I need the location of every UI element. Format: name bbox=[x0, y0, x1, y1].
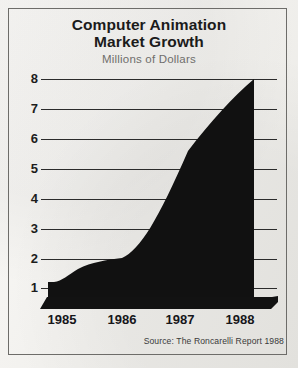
ytick-label-5: 5 bbox=[14, 161, 38, 176]
xtick-label-1988: 1988 bbox=[217, 312, 263, 327]
ytick-dash-2 bbox=[41, 259, 48, 260]
xtick-label-1985: 1985 bbox=[39, 312, 85, 327]
ytick-label-4: 4 bbox=[14, 191, 38, 206]
ytick-label-7: 7 bbox=[14, 101, 38, 116]
xtick-label-1987: 1987 bbox=[157, 312, 203, 327]
ytick-dash-1 bbox=[41, 288, 48, 289]
ytick-label-6: 6 bbox=[14, 131, 38, 146]
axis-baseline-band bbox=[40, 296, 278, 309]
ytick-dash-7 bbox=[41, 109, 48, 110]
ytick-label-3: 3 bbox=[14, 221, 38, 236]
ytick-dash-4 bbox=[41, 199, 48, 200]
ytick-dash-5 bbox=[41, 169, 48, 170]
area-series-fill bbox=[48, 70, 254, 298]
ytick-dash-6 bbox=[41, 139, 48, 140]
ytick-label-2: 2 bbox=[14, 251, 38, 266]
ytick-label-8: 8 bbox=[14, 71, 38, 86]
area-chart: Computer Animation Market Growth Million… bbox=[0, 0, 298, 368]
ytick-dash-8 bbox=[41, 79, 48, 80]
plot-area: 8 7 6 5 4 3 2 1 1985 1986 1987 1988 bbox=[0, 0, 298, 368]
ytick-label-1: 1 bbox=[14, 280, 38, 295]
source-note: Source: The Roncarelli Report 1988 bbox=[144, 336, 284, 346]
ytick-dash-3 bbox=[41, 229, 48, 230]
xtick-label-1986: 1986 bbox=[99, 312, 145, 327]
